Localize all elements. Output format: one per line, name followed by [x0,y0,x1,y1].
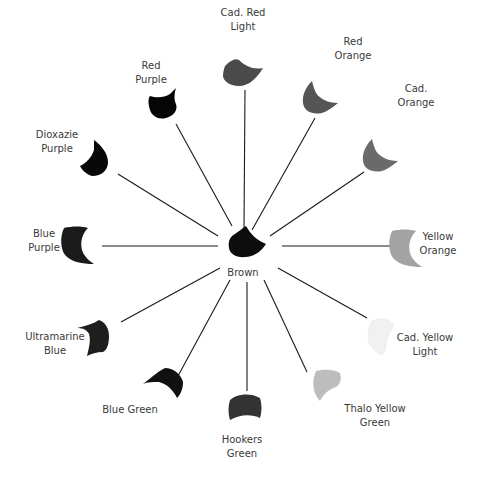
swatch-yellow-orange [389,230,422,268]
label-line: Red [142,60,161,71]
swatch-blue-purple [61,227,94,265]
label-line: Cad. [405,83,428,94]
spoke-line-red-purple [176,124,232,226]
label-line: Green [227,448,257,459]
label-line: Thalo Yellow [343,403,405,414]
label-red-purple: RedPurple [135,60,167,85]
swatch-dioxazie-purple [80,140,108,176]
label-line: Red [344,36,363,47]
label-cad-yellow-light: Cad. YellowLight [397,332,454,357]
label-blue-purple: BluePurple [28,228,60,253]
spoke-line-blue-green [178,280,230,376]
swatch-cad-orange [363,139,398,172]
label-red-orange: RedOrange [335,36,372,61]
label-ultramarine-blue: UltramarineBlue [25,331,85,356]
center-swatch-brown [229,226,266,257]
label-line: Cad. Yellow [397,332,454,343]
label-line: Hookers [222,434,263,445]
label-line: Blue [44,345,66,356]
spoke-line-cad-orange [270,172,364,236]
swatch-red-purple [149,88,177,119]
center-label: Brown [227,267,258,278]
color-wheel-diagram: Cad. RedLightRedOrangeCad.OrangeYellowOr… [0,0,482,486]
spoke-line-red-orange [252,118,315,230]
label-line: Orange [335,50,372,61]
label-line: Purple [135,74,167,85]
label-hookers-green: HookersGreen [222,434,263,459]
swatch-cad-red-light [223,59,263,86]
label-line: Orange [398,97,435,108]
swatch-thalo-yellow-green [313,370,341,401]
spoke-line-cad-red-light [244,90,245,228]
label-dioxazie-purple: DioxaziePurple [36,129,79,154]
label-line: Green [360,417,390,428]
spoke-line-ultramarine-blue [121,268,220,322]
label-line: Yellow [422,231,454,242]
spoke-line-dioxazie-purple [118,174,218,236]
swatch-blue-green [143,368,183,398]
spoke-line-thalo-yellow-green [264,280,307,372]
label-cad-orange: Cad.Orange [398,83,435,108]
label-blue-green: Blue Green [102,404,158,415]
label-line: Purple [41,143,73,154]
spoke-line-cad-yellow-light [278,268,367,318]
swatch-red-orange [303,81,338,114]
label-cad-red-light: Cad. RedLight [221,7,266,32]
label-line: Light [231,21,256,32]
swatch-cad-yellow-light [368,319,394,355]
swatch-hookers-green [229,394,262,420]
label-line: Blue Green [102,404,158,415]
label-line: Ultramarine [25,331,85,342]
label-line: Light [413,346,438,357]
label-yellow-orange: YellowOrange [420,231,457,256]
label-line: Orange [420,245,457,256]
label-line: Purple [28,242,60,253]
label-line: Dioxazie [36,129,79,140]
label-line: Cad. Red [221,7,266,18]
label-line: Blue [33,228,55,239]
label-thalo-yellow-green: Thalo YellowGreen [343,403,405,428]
